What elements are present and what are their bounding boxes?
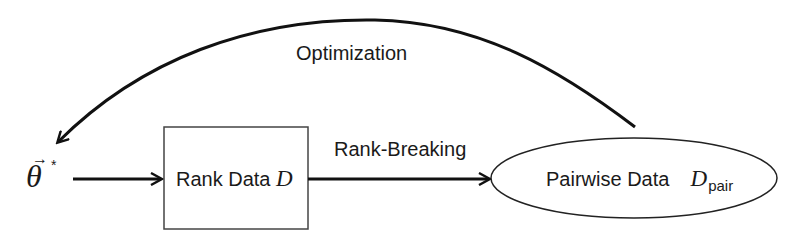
optimization-label: Optimization	[296, 42, 407, 65]
edge-optimization-arc	[58, 20, 635, 142]
diagram-shapes	[0, 0, 800, 240]
pairwise-data-label: Pairwise Data Dpair	[546, 166, 733, 192]
pairwise-data-subscript: pair	[708, 177, 733, 194]
rank-data-symbol: D	[276, 166, 293, 191]
diagram-canvas: → θ * Rank Data D Rank-Breaking Pairwise…	[0, 0, 800, 240]
theta-star-node: → θ *	[26, 158, 66, 198]
theta-symbol: θ	[26, 158, 42, 195]
theta-superscript: *	[51, 157, 56, 173]
pairwise-data-text: Pairwise Data	[546, 168, 669, 190]
pairwise-data-symbol: D	[691, 166, 708, 191]
rank-breaking-label: Rank-Breaking	[334, 138, 466, 161]
rank-data-text: Rank Data	[176, 168, 271, 190]
rank-data-label: Rank Data D	[176, 166, 293, 192]
